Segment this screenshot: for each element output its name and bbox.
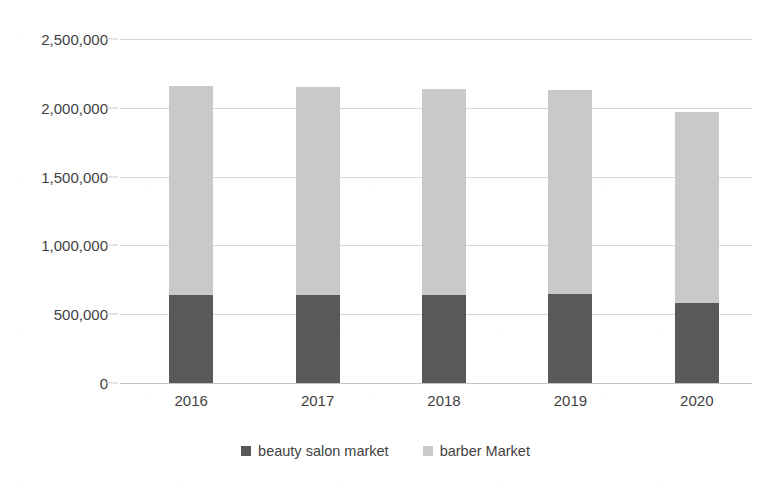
bar-group[interactable] (296, 39, 340, 383)
bar-segment[interactable] (548, 294, 592, 383)
bar-segment[interactable] (548, 90, 592, 294)
legend-item[interactable]: beauty salon market (241, 443, 389, 459)
legend-item[interactable]: barber Market (423, 443, 530, 459)
axis-baseline (120, 383, 752, 384)
legend-label: barber Market (440, 443, 530, 459)
bar-segment[interactable] (675, 112, 719, 303)
x-axis-tick-label: 2018 (404, 392, 484, 409)
legend-swatch-icon (423, 446, 433, 456)
y-axis-tick-mark (106, 383, 118, 384)
x-axis-tick-label: 2019 (530, 392, 610, 409)
legend-label: beauty salon market (258, 443, 389, 459)
y-axis: 2,500,0002,000,0001,500,0001,000,000500,… (0, 39, 108, 383)
bar-group[interactable] (675, 39, 719, 383)
plot-area (120, 39, 752, 383)
bar-segment[interactable] (675, 303, 719, 383)
y-axis-tick-label: 2,000,000 (0, 99, 108, 116)
y-axis-tick-label: 2,500,000 (0, 31, 108, 48)
y-axis-tick-mark (106, 39, 118, 40)
y-axis-tick-mark (106, 314, 118, 315)
bar-segment[interactable] (422, 89, 466, 295)
y-axis-tick-label: 1,000,000 (0, 237, 108, 254)
y-axis-tick-label: 500,000 (0, 306, 108, 323)
x-axis-tick-label: 2020 (657, 392, 737, 409)
x-axis: 20162017201820192020 (120, 392, 752, 416)
y-axis-tick-mark (106, 245, 118, 246)
y-axis-tick-mark (106, 107, 118, 108)
bar-segment[interactable] (296, 87, 340, 295)
bar-segment[interactable] (422, 295, 466, 383)
y-axis-tick-label: 0 (0, 375, 108, 392)
y-axis-tick-label: 1,500,000 (0, 168, 108, 185)
bar-group[interactable] (548, 39, 592, 383)
bar-segment[interactable] (169, 295, 213, 383)
stacked-bar-chart: 2,500,0002,000,0001,500,0001,000,000500,… (0, 0, 771, 486)
bars-layer (120, 39, 752, 383)
bar-group[interactable] (422, 39, 466, 383)
bar-segment[interactable] (169, 86, 213, 295)
bar-segment[interactable] (296, 295, 340, 383)
x-axis-tick-label: 2016 (151, 392, 231, 409)
legend-swatch-icon (241, 446, 251, 456)
y-axis-tick-mark (106, 176, 118, 177)
x-axis-tick-label: 2017 (278, 392, 358, 409)
bar-group[interactable] (169, 39, 213, 383)
chart-legend: beauty salon marketbarber Market (0, 443, 771, 459)
